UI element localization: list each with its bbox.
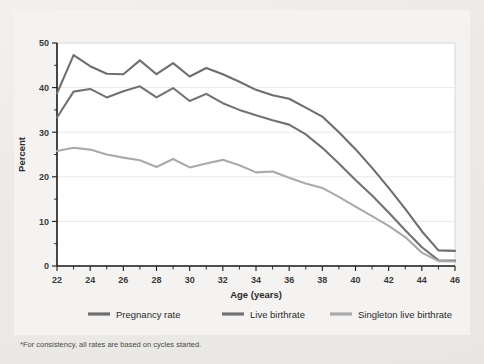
line-chart: 0102030405022242628303234363840424446Age… <box>0 0 484 364</box>
y-axis-tick-label: 40 <box>39 83 49 93</box>
legend-item: Pregnancy rate <box>88 309 180 320</box>
x-axis-tick-label: 36 <box>284 275 294 285</box>
x-axis-tick-label: 38 <box>317 275 327 285</box>
footnote: *For consistency, all rates are based on… <box>20 340 201 349</box>
legend-label: Pregnancy rate <box>116 309 180 320</box>
x-axis-tick-label: 44 <box>417 275 427 285</box>
y-axis-title: Percent <box>16 136 27 172</box>
plot-panel <box>57 43 455 266</box>
x-axis-tick-label: 40 <box>350 275 360 285</box>
y-axis-tick-label: 50 <box>39 38 49 48</box>
y-axis-tick-label: 10 <box>39 217 49 227</box>
legend-item: Live birthrate <box>222 309 305 320</box>
figure-container: 0102030405022242628303234363840424446Age… <box>0 0 484 364</box>
y-axis-tick-label: 0 <box>44 261 49 271</box>
x-axis-tick-label: 34 <box>251 275 261 285</box>
x-axis-tick-label: 32 <box>218 275 228 285</box>
x-axis-tick-label: 22 <box>52 275 62 285</box>
x-axis-tick-label: 46 <box>450 275 460 285</box>
x-axis-title: Age (years) <box>230 289 282 300</box>
x-axis-tick-label: 26 <box>118 275 128 285</box>
legend-label: Singleton live birthrate <box>358 309 452 320</box>
x-axis-tick-label: 30 <box>185 275 195 285</box>
y-axis-tick-label: 30 <box>39 128 49 138</box>
legend-item: Singleton live birthrate <box>330 309 452 320</box>
x-axis-tick-label: 24 <box>85 275 95 285</box>
x-axis-tick-label: 28 <box>151 275 161 285</box>
y-axis-tick-label: 20 <box>39 172 49 182</box>
x-axis-tick-label: 42 <box>384 275 394 285</box>
legend-label: Live birthrate <box>250 309 305 320</box>
